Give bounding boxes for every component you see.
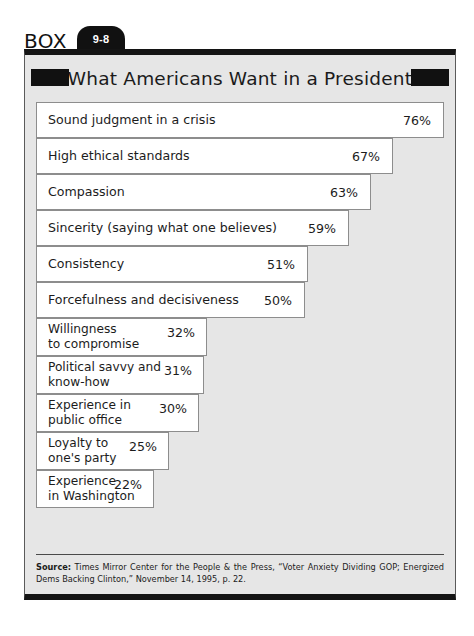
bar-row: Compassion63% (36, 174, 444, 210)
title-ornament-right-block (411, 69, 449, 86)
bar-label: Consistency (37, 256, 124, 271)
bar-label: Sound judgment in a crisis (37, 112, 216, 127)
bar-row: Experience in Washington22% (36, 470, 444, 508)
bar-label: Compassion (37, 184, 125, 199)
title-ornament-left-block (31, 69, 69, 86)
source-divider (36, 554, 444, 555)
bar-row: Sincerity (saying what one believes)59% (36, 210, 444, 246)
bar-value-label: 22% (114, 477, 142, 492)
bar-30: Experience in public office30% (36, 394, 199, 432)
bar-row: Sound judgment in a crisis76% (36, 102, 444, 138)
box-number-tab-group: BOX 9-8 (24, 22, 125, 52)
bar-50: Forcefulness and decisiveness50% (36, 282, 305, 318)
bar-row: Willingness to compromise32% (36, 318, 444, 356)
bar-label: Political savvy and know-how (37, 360, 161, 389)
box-title: What Americans Want in a President (68, 68, 412, 89)
bar-51: Consistency51% (36, 246, 308, 282)
bar-row: Loyalty to one's party25% (36, 432, 444, 470)
bar-25: Loyalty to one's party25% (36, 432, 169, 470)
bar-row: Consistency51% (36, 246, 444, 282)
bar-value-label: 76% (403, 113, 431, 128)
bar-row: Experience in public office30% (36, 394, 444, 432)
bar-76: Sound judgment in a crisis76% (36, 102, 444, 138)
bar-label: High ethical standards (37, 148, 190, 163)
horizontal-bar-chart: Sound judgment in a crisis76%High ethica… (36, 102, 444, 532)
bar-59: Sincerity (saying what one believes)59% (36, 210, 349, 246)
bar-label: Forcefulness and decisiveness (37, 292, 239, 307)
bar-value-label: 30% (159, 401, 187, 416)
bar-67: High ethical standards67% (36, 138, 393, 174)
source-prefix-label: Source: (36, 562, 71, 572)
bar-32: Willingness to compromise32% (36, 318, 207, 356)
bar-label: Experience in public office (37, 398, 131, 427)
bar-row: Forcefulness and decisiveness50% (36, 282, 444, 318)
source-note: Source: Times Mirror Center for the Peop… (36, 554, 444, 586)
box-title-band: What Americans Want in a President (25, 55, 455, 102)
bar-label: Willingness to compromise (37, 322, 139, 351)
bar-63: Compassion63% (36, 174, 371, 210)
bar-row: High ethical standards67% (36, 138, 444, 174)
box-frame: What Americans Want in a President Sound… (24, 49, 456, 600)
bar-value-label: 63% (330, 185, 358, 200)
bar-value-label: 25% (129, 439, 157, 454)
bar-22: Experience in Washington22% (36, 470, 154, 508)
bar-value-label: 59% (308, 221, 336, 236)
bar-value-label: 51% (267, 257, 295, 272)
bar-value-label: 31% (164, 363, 192, 378)
bar-row: Political savvy and know-how31% (36, 356, 444, 394)
bar-value-label: 32% (167, 325, 195, 340)
box-number-label: 9-8 (93, 33, 110, 45)
source-note-text: Source: Times Mirror Center for the Peop… (36, 561, 444, 586)
bar-value-label: 50% (264, 293, 292, 308)
bar-31: Political savvy and know-how31% (36, 356, 204, 394)
bar-label: Loyalty to one's party (37, 436, 116, 465)
bar-value-label: 67% (352, 149, 380, 164)
source-citation-text: Times Mirror Center for the People & the… (36, 562, 444, 585)
box-figure-page: BOX 9-8 What Americans Want in a Preside… (0, 0, 474, 636)
bar-label: Sincerity (saying what one believes) (37, 220, 277, 235)
